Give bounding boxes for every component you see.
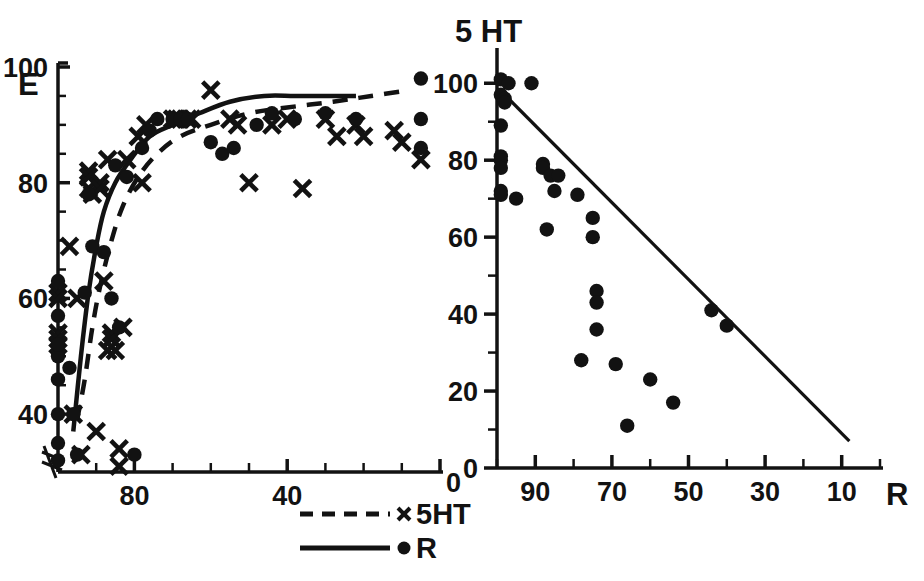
left-x-zero-label: 0: [446, 468, 461, 498]
data-point-circle: [524, 76, 538, 90]
legend-entry-5ht: 5HT: [300, 498, 471, 530]
data-point-circle: [66, 407, 80, 421]
data-point-circle: [540, 222, 554, 236]
right-x-tick-label: 90: [520, 477, 550, 507]
data-point-circle: [104, 291, 118, 305]
data-point-circle: [62, 361, 76, 375]
data-point-circle: [112, 320, 126, 334]
data-point-circle: [494, 161, 508, 175]
data-point-circle: [70, 447, 84, 461]
right-y-tick-label: 40: [448, 300, 478, 330]
data-point-circle: [414, 141, 428, 155]
data-point-circle: [51, 309, 65, 323]
data-point-circle: [570, 188, 584, 202]
data-point-x: [111, 441, 127, 457]
data-point-x: [96, 273, 112, 289]
data-point-circle: [318, 106, 332, 120]
data-point-circle: [265, 106, 279, 120]
data-point-x: [329, 128, 345, 144]
data-point-circle: [586, 211, 600, 225]
data-point-circle: [127, 447, 141, 461]
data-point-x: [61, 238, 77, 254]
data-point-x: [229, 117, 245, 133]
data-point-circle: [51, 338, 65, 352]
data-point-circle: [643, 372, 657, 386]
right-y-tick-label: 60: [448, 223, 478, 253]
right-y-tick-label: 0: [463, 454, 478, 484]
data-point-circle: [574, 353, 588, 367]
data-point-circle: [589, 322, 603, 336]
left-y-tick-label: 40: [18, 400, 48, 430]
right-x-tick-label: 30: [750, 477, 780, 507]
data-point-circle: [666, 395, 680, 409]
right-x-tick-label: 10: [827, 477, 857, 507]
data-point-circle: [51, 372, 65, 386]
left-y-tick-label: 60: [18, 284, 48, 314]
right-x-tick-label: 70: [597, 477, 627, 507]
data-point-circle: [494, 118, 508, 132]
data-point-circle: [51, 274, 65, 288]
right-x-tick-label: 50: [673, 477, 703, 507]
data-point-circle: [51, 453, 65, 467]
data-point-circle: [78, 285, 92, 299]
data-point-circle: [509, 191, 523, 205]
data-point-circle: [586, 230, 600, 244]
data-point-circle: [551, 168, 565, 182]
data-point-x: [203, 82, 219, 98]
left-y-tick-label: 100: [3, 53, 48, 83]
left-axes: [42, 63, 443, 478]
data-point-circle: [97, 245, 111, 259]
data-point-circle: [349, 112, 363, 126]
right-y-axis-label: 5 HT: [455, 14, 522, 49]
data-point-x: [294, 180, 310, 196]
data-point-circle: [81, 187, 95, 201]
legend-circle-marker: [398, 542, 411, 555]
legend: 5HT R: [300, 498, 471, 564]
left-panel: E 4060801008040 0: [3, 53, 461, 511]
data-point-circle: [181, 112, 195, 126]
legend-label-r: R: [416, 532, 437, 564]
right-y-tick-label: 100: [433, 69, 478, 99]
legend-label-5ht: 5HT: [416, 498, 471, 530]
data-point-circle: [51, 436, 65, 450]
data-point-circle: [288, 112, 302, 126]
right-y-tick-label: 80: [448, 146, 478, 176]
data-point-circle: [414, 112, 428, 126]
right-y-tick-label: 20: [448, 377, 478, 407]
right-fit-line: [505, 95, 850, 441]
data-point-circle: [547, 184, 561, 198]
data-point-circle: [609, 357, 623, 371]
data-point-circle: [494, 188, 508, 202]
left-y-tick-label: 80: [18, 169, 48, 199]
data-point-circle: [704, 303, 718, 317]
data-point-x: [241, 175, 257, 191]
right-panel: 5 HT R 0204060801009070503010: [433, 14, 908, 512]
right-data-points: [494, 72, 734, 433]
left-x-tick-label: 80: [119, 481, 149, 511]
data-point-circle: [135, 141, 149, 155]
left-data-points: [50, 71, 429, 474]
right-axes: [484, 48, 883, 468]
data-point-circle: [620, 418, 634, 432]
data-point-circle: [497, 95, 511, 109]
data-point-circle: [589, 295, 603, 309]
data-point-circle: [120, 170, 134, 184]
figure-root: E 4060801008040 0 5 HT R 020406080100907…: [0, 0, 924, 581]
data-point-circle: [108, 158, 122, 172]
legend-x-marker: [398, 508, 410, 520]
data-point-circle: [150, 112, 164, 126]
data-point-circle: [249, 118, 263, 132]
data-point-circle: [51, 407, 65, 421]
data-point-circle: [204, 135, 218, 149]
right-x-axis-label: R: [886, 477, 908, 512]
data-point-circle: [720, 318, 734, 332]
left-x-tick-label: 40: [272, 481, 302, 511]
scientific-figure: E 4060801008040 0 5 HT R 020406080100907…: [0, 0, 924, 581]
right-regression-line: [505, 95, 850, 441]
legend-entry-r: R: [300, 532, 437, 564]
data-point-x: [88, 423, 104, 439]
data-point-circle: [414, 71, 428, 85]
data-point-circle: [227, 141, 241, 155]
